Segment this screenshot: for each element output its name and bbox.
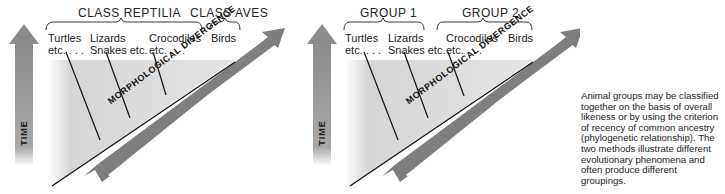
group-label-1: GROUP 1 <box>360 6 417 20</box>
panel-reptilia-aves: CLASS REPTILIA CLASS AVES Turtles etc. .… <box>0 0 290 194</box>
taxon-lizards-snakes: Lizards Snakes etc. <box>90 32 147 56</box>
panel-group1-group2: GROUP 1 GROUP 2 Turtles etc. . . . Lizar… <box>290 0 580 194</box>
figure-caption: Animal groups may be classified together… <box>581 91 723 186</box>
taxon-turtles: Turtles etc. . . . <box>345 32 381 56</box>
taxon-birds: Birds <box>508 32 533 44</box>
taxon-lizards-snakes: Lizards Snakes etc. <box>388 32 445 56</box>
taxon-birds: Birds <box>211 32 236 44</box>
cladogram-2 <box>290 0 580 194</box>
cladogram-1 <box>0 0 290 194</box>
time-label: TIME <box>317 119 327 147</box>
time-label: TIME <box>19 119 29 147</box>
taxon-turtles: Turtles etc. . . . <box>48 32 84 56</box>
group-label-reptilia: CLASS REPTILIA <box>78 6 181 20</box>
